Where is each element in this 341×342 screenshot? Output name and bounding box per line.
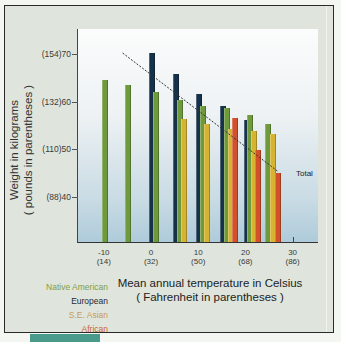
x-axis-title: Mean annual temperature in Celsius ( Fah… (100, 276, 320, 304)
legend-item-european: European (71, 296, 108, 306)
legend-item-se-asian: S.E. Asian (69, 310, 108, 320)
x-axis-title-main: Mean annual temperature in Celsius (100, 276, 320, 290)
legend-item-native-american: Native American (46, 282, 108, 292)
x-axis-title-sub: ( Fahrenheit in parentheses ) (100, 290, 320, 304)
total-label: Total (296, 169, 313, 178)
decorative-strip (30, 334, 100, 342)
legend-item-african: African (82, 324, 108, 334)
